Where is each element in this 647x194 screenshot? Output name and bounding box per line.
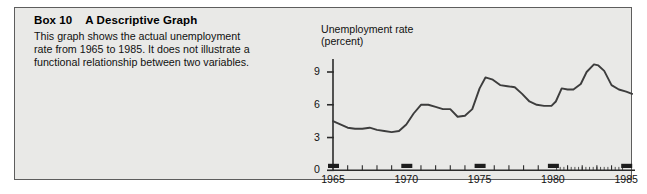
chart-plot-area (304, 15, 647, 188)
x-major-tick (401, 164, 412, 168)
x-tick-label: 1980 (533, 173, 573, 185)
page-canvas: Box 10A Descriptive Graph This graph sho… (0, 0, 647, 194)
description-line-2: rate from 1965 to 1985. It does not illu… (34, 43, 304, 56)
x-tick-label: 1965 (313, 173, 353, 185)
y-tick-label: 6 (306, 98, 320, 110)
x-major-tick (548, 164, 559, 168)
y-tick-label: 9 (306, 65, 320, 77)
x-major-tick (475, 164, 486, 168)
x-tick-label: 1970 (386, 173, 426, 185)
x-axis-ticks (328, 164, 632, 171)
x-tick-label: 1975 (460, 173, 500, 185)
description-line-3: functional relationship between two vari… (34, 56, 304, 69)
description-line-1: This graph shows the actual unemployment (34, 30, 304, 43)
box-number: Box 10 (34, 14, 72, 26)
x-major-tick (328, 164, 339, 168)
description-panel: Box 10A Descriptive Graph This graph sho… (34, 14, 304, 70)
box-title: Box 10A Descriptive Graph (34, 14, 304, 26)
x-tick-label: 1985 (606, 173, 646, 185)
box-description: This graph shows the actual unemployment… (34, 30, 304, 70)
unemployment-chart: Unemployment rate (percent) 0369 1965197… (304, 15, 647, 188)
y-tick-label: 3 (306, 131, 320, 143)
x-major-tick (621, 164, 632, 168)
box-heading: A Descriptive Graph (85, 14, 197, 26)
figure-box: Box 10A Descriptive Graph This graph sho… (14, 7, 632, 180)
unemployment-rate-line (333, 64, 632, 132)
